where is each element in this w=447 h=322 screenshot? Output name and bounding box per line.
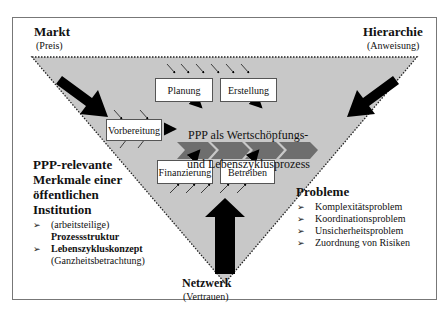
list-item: ➢Unsicherheitsproblem (297, 225, 410, 237)
list-item: ➢Komplexitätsproblem (297, 201, 410, 213)
item-text: Koordinationsproblem (315, 213, 406, 224)
list-item: ➢Zuordnung von Risiken (297, 237, 410, 249)
netzwerk-title: Netzwerk (182, 276, 231, 291)
hierarchie-title: Hierarchie (363, 24, 423, 40)
item-text: Unsicherheitsproblem (315, 225, 403, 236)
item-text-bold: Lebenszykluskonzept (51, 243, 145, 255)
center-label-line1: PPP als Wertschöpfungs- (188, 128, 308, 143)
item-text: (arbeitsteilige) (51, 219, 145, 231)
right-panel-heading: Probleme (296, 184, 349, 200)
center-label-line2: und Lebenszyklusprozess (187, 157, 310, 172)
item-text: (Ganzheitsbetrachtung) (51, 255, 145, 267)
hierarchie-subtitle: (Anweisung) (367, 40, 419, 51)
item-text: Zuordnung von Risiken (315, 237, 410, 248)
markt-subtitle: (Preis) (36, 40, 63, 51)
left-heading-line2: Merkmale einer (33, 172, 122, 187)
box-vorbereitung: Vorbereitung (106, 119, 162, 141)
list-item: ➢Koordinationsproblem (297, 213, 410, 225)
bullet-arrow-icon: ➢ (33, 243, 41, 255)
markt-title: Markt (34, 24, 70, 40)
item-text: Komplexitätsproblem (315, 201, 402, 212)
list-item: ➢ Lebenszykluskonzept (Ganzheitsbetracht… (33, 243, 145, 267)
bullet-arrow-icon: ➢ (297, 237, 305, 249)
netzwerk-subtitle: (Vertrauen) (183, 291, 229, 302)
bullet-arrow-icon: ➢ (297, 201, 305, 213)
right-panel-list: ➢Komplexitätsproblem ➢Koordinationsprobl… (297, 201, 410, 249)
box-erstellung: Erstellung (220, 78, 277, 102)
item-text-bold: Prozessstruktur (51, 231, 145, 243)
left-panel-heading: PPP-relevante Merkmale einer öffentliche… (33, 157, 122, 217)
left-heading-line3: öffentlichen (33, 187, 122, 202)
bullet-arrow-icon: ➢ (297, 213, 305, 225)
bullet-arrow-icon: ➢ (297, 225, 305, 237)
box-planung: Planung (155, 78, 213, 102)
left-heading-line1: PPP-relevante (33, 157, 122, 172)
left-heading-line4: Institution (33, 202, 122, 217)
bullet-arrow-icon: ➢ (33, 219, 41, 231)
list-item: ➢ (arbeitsteilige) Prozessstruktur (33, 219, 145, 243)
left-panel-list: ➢ (arbeitsteilige) Prozessstruktur ➢ Leb… (33, 219, 145, 267)
